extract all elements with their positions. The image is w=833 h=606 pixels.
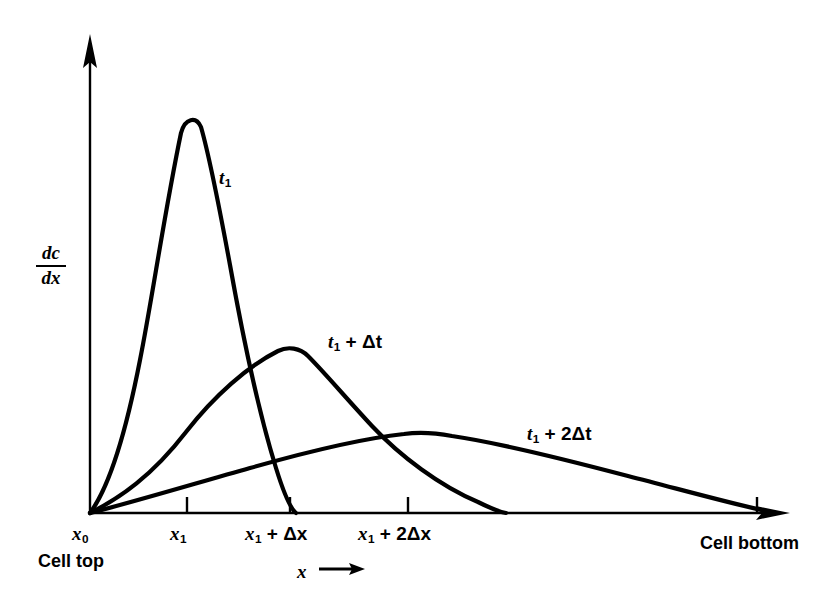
plot-area	[0, 0, 833, 606]
tick-label-x1-plus-2dx-base: x	[358, 523, 368, 544]
tick-label-x1-plus-dx-sub: 1	[255, 532, 262, 545]
cell-top-label: Cell top	[38, 552, 104, 570]
tick-label-x1-plus-dx-base: x	[245, 523, 255, 544]
tick-label-x1-plus-2dx: x1 + 2Δx	[358, 524, 431, 545]
curve-label-t1-plus-dt: t1 + Δt	[328, 332, 382, 353]
curve-label-t1-sub: 1	[224, 176, 231, 189]
tick-label-x1: x1	[170, 524, 187, 545]
curve-t1	[90, 120, 296, 513]
axis-group	[83, 34, 790, 520]
curve-label-t1-plus-2dt: t1 + 2Δt	[527, 424, 592, 445]
right-arrow-icon	[319, 560, 365, 579]
y-axis-label-numerator: dc	[24, 243, 78, 264]
tick-label-x0-sub: 0	[82, 532, 89, 545]
right-arrow-svg	[319, 562, 365, 576]
y-axis-label-denominator: dx	[24, 268, 78, 289]
tick-label-x0: x0	[72, 524, 89, 545]
tick-label-x1-plus-dx-suffix: + Δx	[262, 523, 308, 544]
x-axis-variable: x	[297, 561, 307, 582]
curve-t1-plus-dt	[90, 348, 506, 513]
curve-label-t1: t1	[219, 168, 231, 189]
curve-t1-plus-2dt	[90, 433, 775, 513]
tick-label-x1-plus-2dx-suffix: + 2Δx	[375, 523, 431, 544]
curve-label-t1-plus-2dt-suffix: + 2Δt	[539, 423, 591, 444]
tick-label-x1-plus-2dx-sub: 1	[368, 532, 375, 545]
cell-bottom-label: Cell bottom	[700, 534, 799, 552]
tick-label-x1-sub: 1	[180, 532, 187, 545]
tick-label-x1-base: x	[170, 523, 180, 544]
figure-container: dc dx x0 x1 x1 + Δx x1 + 2Δx t1 t1 + Δt …	[0, 0, 833, 606]
curves-group	[90, 120, 775, 513]
tick-label-x1-plus-dx: x1 + Δx	[245, 524, 307, 545]
x-axis-name: x	[297, 560, 365, 581]
y-axis-label: dc dx	[24, 243, 78, 288]
curve-label-t1-plus-dt-suffix: + Δt	[340, 331, 382, 352]
tick-label-x0-base: x	[72, 523, 82, 544]
